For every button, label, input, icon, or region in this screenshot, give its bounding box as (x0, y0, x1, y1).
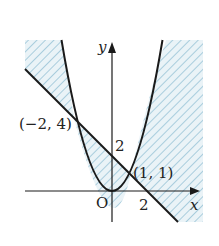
x-intercept-label: 2 (139, 196, 149, 214)
y-axis-label: y (97, 38, 107, 56)
x-axis-label: x (190, 196, 199, 214)
origin-label: O (96, 194, 108, 212)
y-intercept-label: 2 (115, 137, 125, 155)
point-left-label: (−2, 4) (19, 115, 72, 133)
point-right-label: (1, 1) (133, 164, 173, 182)
y-axis-arrow-icon (108, 42, 116, 53)
coordinate-diagram: y x O 2 2 (−2, 4) (1, 1) (0, 0, 219, 246)
shaded-region-upper-left (25, 40, 74, 118)
shaded-region-right (131, 40, 203, 222)
